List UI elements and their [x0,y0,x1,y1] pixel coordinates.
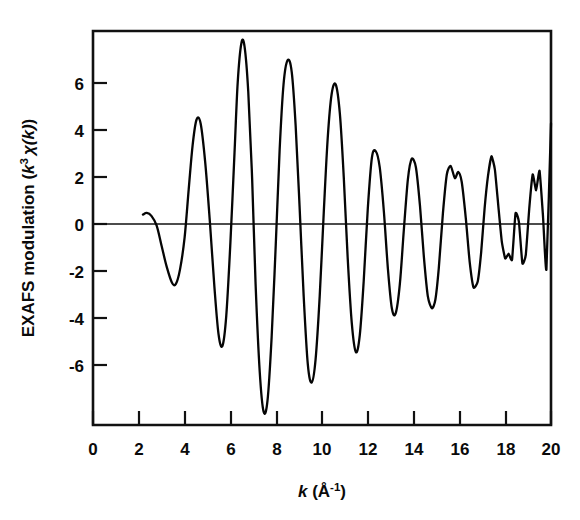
x-tick-label-18: 18 [497,440,516,459]
exafs-chart-figure: 6 4 2 0 -2 -4 -6 0 2 4 6 [0,0,580,520]
chart-canvas: 6 4 2 0 -2 -4 -6 0 2 4 6 [0,0,580,520]
x-title-open: ( [307,482,318,501]
x-tick-label-10: 10 [313,440,332,459]
x-title-exponent: -1 [330,481,341,493]
x-tick-label-6: 6 [226,440,235,459]
y-tick-label-6: 6 [75,75,84,94]
y-title-close: ) [19,119,38,125]
x-tick-label-12: 12 [359,440,378,459]
y-tick-label-minus2: -2 [69,263,84,282]
x-tick-label-20: 20 [542,440,561,459]
x-title-close: ) [340,482,346,501]
figure-background [0,0,580,520]
x-title-unit: Å [318,482,330,501]
x-tick-label-4: 4 [180,440,190,459]
x-tick-label-0: 0 [88,440,97,459]
y-title-prefix: EXAFS modulation ( [19,174,38,338]
y-title-arg: (k) [19,124,38,145]
y-tick-label-minus4: -4 [69,310,85,329]
x-tick-label-8: 8 [272,440,281,459]
x-tick-label-16: 16 [451,440,470,459]
x-tick-label-14: 14 [405,440,424,459]
y-tick-label-minus6: -6 [69,357,84,376]
svg-text:EXAFS modulation (k3χ(k)): EXAFS modulation (k3χ(k)) [18,119,38,338]
y-tick-label-2: 2 [75,169,84,188]
y-title-power: 3 [18,158,30,164]
x-tick-label-2: 2 [134,440,143,459]
y-tick-label-0: 0 [75,216,84,235]
y-tick-label-4: 4 [75,122,85,141]
y-axis-title: EXAFS modulation (k3χ(k)) [18,119,38,338]
